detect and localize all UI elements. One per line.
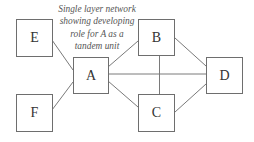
network-diagram: Single layer network showing developing … xyxy=(0,0,254,142)
node-a: A xyxy=(73,57,109,94)
node-f: F xyxy=(16,94,53,132)
node-label: F xyxy=(31,105,39,121)
edge-b-d xyxy=(175,38,206,66)
edge-f-a xyxy=(52,82,73,110)
diagram-caption: Single layer network showing developing … xyxy=(56,3,138,53)
node-label: D xyxy=(219,68,229,84)
node-label: A xyxy=(86,68,96,84)
node-d: D xyxy=(206,57,243,94)
caption-line: showing developing xyxy=(56,15,138,27)
caption-line: Single layer network xyxy=(56,3,138,15)
node-label: E xyxy=(30,30,39,46)
node-c: C xyxy=(138,94,175,132)
node-e: E xyxy=(16,19,53,57)
edge-c-d xyxy=(175,84,206,112)
node-label: B xyxy=(152,30,161,46)
node-b: B xyxy=(138,19,175,56)
caption-line: role for A as a xyxy=(56,28,138,40)
caption-line: tandem unit xyxy=(56,40,138,52)
edge-a-c xyxy=(108,81,138,107)
node-label: C xyxy=(152,105,161,121)
